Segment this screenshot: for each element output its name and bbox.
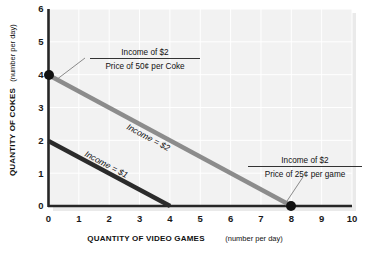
- x-tick-label: 7: [258, 213, 263, 224]
- y-tick-label: 4: [38, 69, 44, 80]
- x-tick-label: 2: [107, 213, 112, 224]
- budget-constraint-figure: 012345678910 0123456 Income of $2 Price …: [0, 0, 384, 261]
- x-tick-label: 9: [319, 213, 324, 224]
- y-tick-label: 2: [38, 135, 43, 146]
- marker-coke-intercept: [44, 70, 54, 80]
- y-tick-label: 1: [38, 168, 44, 179]
- marker-game-intercept: [286, 201, 296, 211]
- x-tick-label: 3: [137, 213, 142, 224]
- y-tick-label: 3: [38, 102, 43, 113]
- x-tick-labels: 012345678910: [46, 213, 357, 224]
- x-tick-label: 4: [167, 213, 173, 224]
- x-axis-title-sub: (number per day): [225, 234, 283, 243]
- x-tick-label: 6: [228, 213, 233, 224]
- x-tick-label: 1: [76, 213, 82, 224]
- chart-canvas: 012345678910 0123456 Income of $2 Price …: [0, 0, 384, 261]
- annotation-coke-denominator: Price of 50¢ per Coke: [105, 62, 185, 71]
- annotation-coke-numerator: Income of $2: [121, 48, 169, 57]
- y-axis-title: QUANTITY OF COKES (number per day): [8, 24, 17, 176]
- x-tick-label: 10: [347, 213, 358, 224]
- x-axis-title: QUANTITY OF VIDEO GAMES (number per day): [87, 234, 283, 243]
- x-tick-label: 5: [198, 213, 204, 224]
- annotation-game-denominator: Price of 25¢ per game: [265, 170, 346, 179]
- x-tick-label: 8: [289, 213, 294, 224]
- annotation-game-numerator: Income of $2: [281, 156, 329, 165]
- y-tick-labels: 0123456: [38, 3, 44, 211]
- y-tick-label: 5: [38, 36, 44, 47]
- x-axis-title-main: QUANTITY OF VIDEO GAMES: [87, 234, 205, 243]
- y-tick-label: 6: [38, 3, 43, 14]
- y-axis-title-sub: (number per day): [8, 24, 17, 82]
- y-axis-title-main: QUANTITY OF COKES: [8, 87, 17, 176]
- y-tick-label: 0: [38, 200, 43, 211]
- x-tick-label: 0: [46, 213, 51, 224]
